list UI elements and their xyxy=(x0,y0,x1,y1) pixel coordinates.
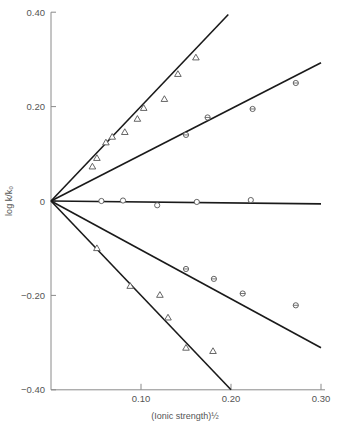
fit-line xyxy=(51,63,321,201)
chart: 0.400.200−0.20−0.400.100.200.30 (Ionic s… xyxy=(0,0,339,426)
triangle-marker xyxy=(210,348,217,354)
series-lower-triangles xyxy=(94,245,217,354)
circle-marker xyxy=(248,197,253,202)
series-upper-triangles xyxy=(89,54,199,169)
fit-line xyxy=(51,201,321,204)
triangle-marker xyxy=(175,71,182,77)
circle-marker xyxy=(99,198,104,203)
x-tick-label: 0.10 xyxy=(132,393,151,404)
triangle-marker xyxy=(165,314,172,320)
y-tick-label: 0.40 xyxy=(27,7,46,18)
triangle-marker xyxy=(134,116,141,122)
triangle-marker xyxy=(161,96,168,102)
triangle-marker xyxy=(89,163,96,169)
series-lower-barred-circles xyxy=(183,266,298,308)
fit-line xyxy=(51,15,228,201)
y-tick-label: −0.40 xyxy=(21,384,45,395)
triangle-marker xyxy=(122,129,129,135)
triangle-marker xyxy=(157,292,164,298)
y-tick-label: 0.20 xyxy=(27,101,46,112)
fit-lines xyxy=(51,15,321,390)
triangle-marker xyxy=(193,54,200,60)
y-tick-label: 0 xyxy=(40,196,45,207)
circle-marker xyxy=(194,199,199,204)
circle-marker xyxy=(155,203,160,208)
y-axis-title: log k/k₀ xyxy=(4,186,14,216)
x-tick-label: 0.30 xyxy=(312,393,331,404)
fit-line xyxy=(51,201,231,390)
x-axis-title: (Ionic strength)½ xyxy=(151,411,219,421)
y-tick-label: −0.20 xyxy=(21,290,45,301)
x-tick-label: 0.20 xyxy=(222,393,241,404)
series-upper-barred-circles xyxy=(183,80,298,137)
fit-line xyxy=(51,201,321,348)
axes: 0.400.200−0.20−0.400.100.200.30 xyxy=(21,7,330,404)
circle-marker xyxy=(120,198,125,203)
